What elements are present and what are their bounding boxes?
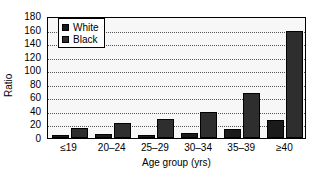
legend-swatch-white-icon [62, 24, 69, 31]
bar-black [114, 123, 131, 138]
chart-legend: White Black [58, 18, 105, 48]
y-tick-label: 80 [30, 80, 41, 90]
y-tick-label: 20 [30, 120, 41, 130]
y-tick-label: 120 [24, 53, 41, 63]
bar-white [138, 135, 155, 138]
x-axis-tick-labels: ≤1920–2425–2930–3435–39≥40 [47, 142, 306, 156]
x-axis-label: Age group (yrs) [47, 157, 306, 169]
bar-black [157, 119, 174, 138]
y-tick-label: 140 [24, 39, 41, 49]
y-tick-label: 180 [24, 12, 41, 22]
bar-group [221, 18, 264, 138]
legend-item-black: Black [62, 33, 99, 45]
y-tick-label: 100 [24, 66, 41, 76]
bar-black [243, 93, 260, 138]
bar-group [264, 18, 306, 138]
legend-swatch-black-icon [62, 36, 69, 43]
bar-white [181, 133, 198, 138]
x-tick-label: ≥40 [276, 142, 293, 154]
bar-white [224, 129, 241, 138]
x-tick-label: 20–24 [98, 142, 126, 154]
legend-item-white: White [62, 21, 99, 33]
legend-label-white: White [73, 22, 99, 33]
bar-black [200, 112, 217, 138]
y-tick-label: 40 [30, 107, 41, 117]
x-tick-label: ≤19 [60, 142, 77, 154]
bar-black [286, 31, 303, 138]
bar-group [178, 18, 221, 138]
y-axis-tick-labels: 020406080100120140160180 [14, 17, 44, 139]
x-tick-label: 30–34 [184, 142, 212, 154]
y-tick-label: 60 [30, 93, 41, 103]
x-tick-label: 35–39 [227, 142, 255, 154]
y-tick-label: 160 [24, 26, 41, 36]
bar-black [71, 128, 88, 138]
bar-chart-figure: Ratio 020406080100120140160180 White Bla… [0, 0, 315, 177]
bar-white [267, 120, 284, 138]
y-tick-label: 0 [35, 134, 41, 144]
bar-white [52, 135, 69, 138]
bar-group [134, 18, 177, 138]
bar-white [95, 134, 112, 138]
x-tick-label: 25–29 [141, 142, 169, 154]
legend-label-black: Black [73, 34, 97, 45]
